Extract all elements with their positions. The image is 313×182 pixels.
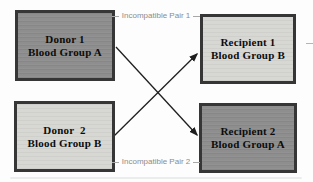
donor-2-box: Donor 2 Blood Group B — [14, 101, 115, 172]
donor-1-box: Donor 1 Blood Group A — [15, 10, 115, 81]
scan-artifact-line — [10, 177, 302, 179]
recipient-1-blood-group: Blood Group B — [211, 49, 285, 62]
donor-1-title: Donor 1 — [45, 33, 84, 46]
arrow-donor2-to-recipient1 — [114, 54, 197, 136]
incompatible-pair-2-label: Incompatible Pair 2 — [113, 157, 199, 167]
recipient-1-box: Recipient 1 Blood Group B — [200, 14, 296, 84]
pair-2-label-text: Incompatible Pair 2 — [122, 157, 190, 167]
label-connector-dash — [112, 16, 119, 17]
kidney-paired-exchange-diagram: Donor 1 Blood Group A Recipient 1 Blood … — [0, 0, 313, 182]
incompatible-pair-1-label: Incompatible Pair 1 — [113, 11, 199, 21]
recipient-2-box: Recipient 2 Blood Group A — [199, 103, 297, 173]
donor-2-blood-group: Blood Group B — [28, 137, 102, 150]
label-connector-dash — [193, 16, 200, 17]
right-edge-dash — [306, 43, 313, 44]
label-connector-dash — [193, 162, 200, 163]
recipient-1-title: Recipient 1 — [220, 36, 275, 49]
recipient-2-title: Recipient 2 — [220, 125, 275, 138]
donor-2-title: Donor 2 — [43, 124, 85, 137]
arrow-donor1-to-recipient2 — [116, 47, 197, 135]
label-connector-dash — [112, 162, 119, 163]
recipient-2-blood-group: Blood Group A — [211, 138, 285, 151]
donor-1-blood-group: Blood Group A — [28, 46, 102, 59]
pair-1-label-text: Incompatible Pair 1 — [122, 11, 190, 21]
